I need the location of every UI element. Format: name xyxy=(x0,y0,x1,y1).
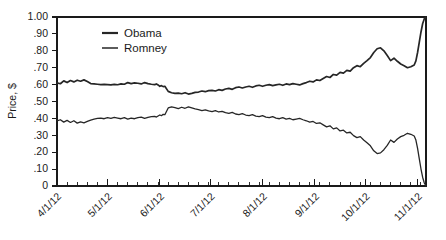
y-tick-label-9: .10 xyxy=(33,162,48,174)
y-tick-label-7: .30 xyxy=(33,129,48,141)
y-tick-label-1: .90 xyxy=(33,27,48,39)
y-tick-label-4: .60 xyxy=(33,78,48,90)
y-tick-label-2: .80 xyxy=(33,44,48,56)
x-tick-label-4: 8/1/12 xyxy=(240,190,269,219)
y-tick-label-10: 0 xyxy=(42,179,48,191)
y-axis-ticks xyxy=(52,17,57,186)
y-axis-title-text: Price, $ xyxy=(6,83,18,119)
x-tick-label-3: 7/1/12 xyxy=(188,190,217,219)
x-tick-label-0: 4/1/12 xyxy=(34,190,63,219)
x-tick-label-7: 11/1/12 xyxy=(391,190,424,223)
x-axis-major-ticks xyxy=(57,179,418,186)
y-tick-label-5: .50 xyxy=(33,95,48,107)
x-tick-label-6: 10/1/12 xyxy=(338,190,371,223)
legend: Obama Romney xyxy=(102,27,167,54)
y-axis-tick-labels: 1.00.90.80.70.60.50.40.30.20.100 xyxy=(28,10,49,191)
y-tick-label-6: .40 xyxy=(33,112,48,124)
prediction-market-line-chart: 1.00.90.80.70.60.50.40.30.20.100 4/1/125… xyxy=(0,0,446,240)
x-axis-minor-ticks xyxy=(57,182,421,186)
legend-label-obama: Obama xyxy=(124,27,162,39)
data-series-group xyxy=(57,17,426,186)
x-axis-tick-labels: 4/1/125/1/126/1/127/1/128/1/129/1/1210/1… xyxy=(34,190,424,223)
y-tick-label-3: .70 xyxy=(33,61,48,73)
y-tick-label-0: 1.00 xyxy=(28,10,49,22)
x-tick-label-2: 6/1/12 xyxy=(137,190,166,219)
x-tick-label-1: 5/1/12 xyxy=(85,190,114,219)
y-axis-title: Price, $ xyxy=(6,83,18,119)
x-tick-label-5: 9/1/12 xyxy=(292,190,321,219)
y-tick-label-8: .20 xyxy=(33,145,48,157)
series-line-obama xyxy=(57,17,426,94)
chart-container: 1.00.90.80.70.60.50.40.30.20.100 4/1/125… xyxy=(0,0,446,240)
series-line-romney xyxy=(57,107,426,186)
plot-frame xyxy=(57,17,426,186)
legend-label-romney: Romney xyxy=(124,42,167,54)
